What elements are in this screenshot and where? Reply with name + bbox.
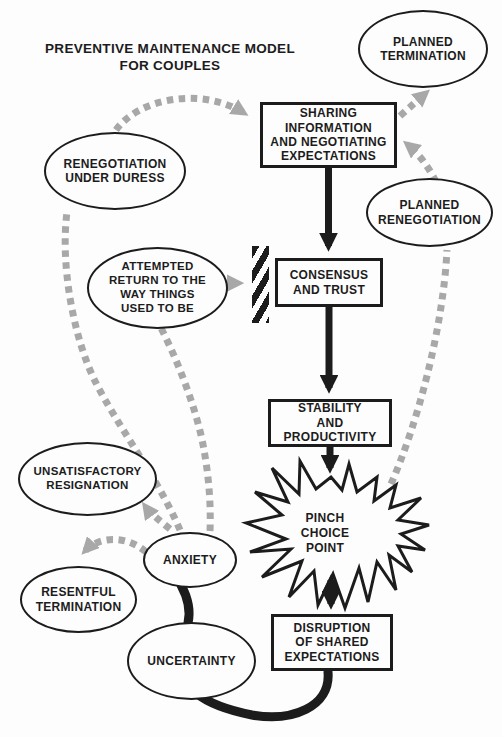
node-label: RENEGOTIATION UNDER DURESS: [63, 157, 166, 186]
node-planned-termination: PLANNED TERMINATION: [358, 10, 488, 88]
node-uncertainty: UNCERTAINTY: [127, 622, 256, 700]
edge-anxiety-to-resentful: [85, 539, 146, 552]
node-disruption-of-shared-expectations: DISRUPTION OF SHARED EXPECTATIONS: [271, 614, 393, 671]
node-label: UNCERTAINTY: [147, 654, 235, 668]
node-label: UNSATISFACTORY RESIGNATION: [33, 465, 141, 493]
node-pinch-choice-point: PINCH CHOICE POINT: [270, 504, 380, 562]
edge-pinch-to-planned-renegotiation: [391, 250, 447, 484]
node-attempted-return: ATTEMPTED RETURN TO THE WAY THINGS USED …: [87, 247, 228, 329]
edge-anxiety-to-unsatisfactory: [145, 506, 170, 529]
node-label: SHARING INFORMATION AND NEGOTIATING EXPE…: [270, 106, 386, 164]
node-label: ANXIETY: [163, 553, 217, 567]
node-label: ATTEMPTED RETURN TO THE WAY THINGS USED …: [109, 260, 206, 315]
edge-anxiety-to-attempted-return: [161, 328, 210, 531]
node-label: DISRUPTION OF SHARED EXPECTATIONS: [284, 621, 379, 664]
blocked-path-barrier-icon: [252, 246, 269, 323]
node-anxiety: ANXIETY: [143, 532, 237, 588]
node-label: PLANNED TERMINATION: [380, 35, 466, 64]
node-label: STABILITY AND PRODUCTIVITY: [284, 401, 377, 444]
node-renegotiation-under-duress: RENEGOTIATION UNDER DURESS: [44, 132, 186, 210]
node-unsatisfactory-resignation: UNSATISFACTORY RESIGNATION: [18, 442, 157, 516]
node-label: PINCH CHOICE POINT: [301, 511, 349, 556]
node-planned-renegotiation: PLANNED RENEGOTIATION: [366, 178, 493, 247]
node-sharing-information: SHARING INFORMATION AND NEGOTIATING EXPE…: [260, 102, 397, 168]
node-label: RESENTFUL TERMINATION: [36, 585, 122, 614]
node-stability-and-productivity: STABILITY AND PRODUCTIVITY: [268, 399, 392, 447]
edge-duress-to-sharing: [116, 98, 244, 130]
edge-planned-renegotiation-to-sharing: [407, 144, 436, 182]
node-consensus-and-trust: CONSENSUS AND TRUST: [275, 258, 383, 307]
node-resentful-termination: RESENTFUL TERMINATION: [20, 566, 137, 633]
diagram-title: PREVENTIVE MAINTENANCE MODEL FOR COUPLES: [30, 41, 310, 75]
diagram-page: PREVENTIVE MAINTENANCE MODEL FOR COUPLES…: [0, 0, 502, 737]
edge-sharing-to-planned-termination: [400, 93, 426, 116]
node-label: PLANNED RENEGOTIATION: [378, 198, 481, 227]
edge-anxiety-to-uncertainty: [181, 585, 189, 623]
node-label: CONSENSUS AND TRUST: [290, 268, 369, 297]
